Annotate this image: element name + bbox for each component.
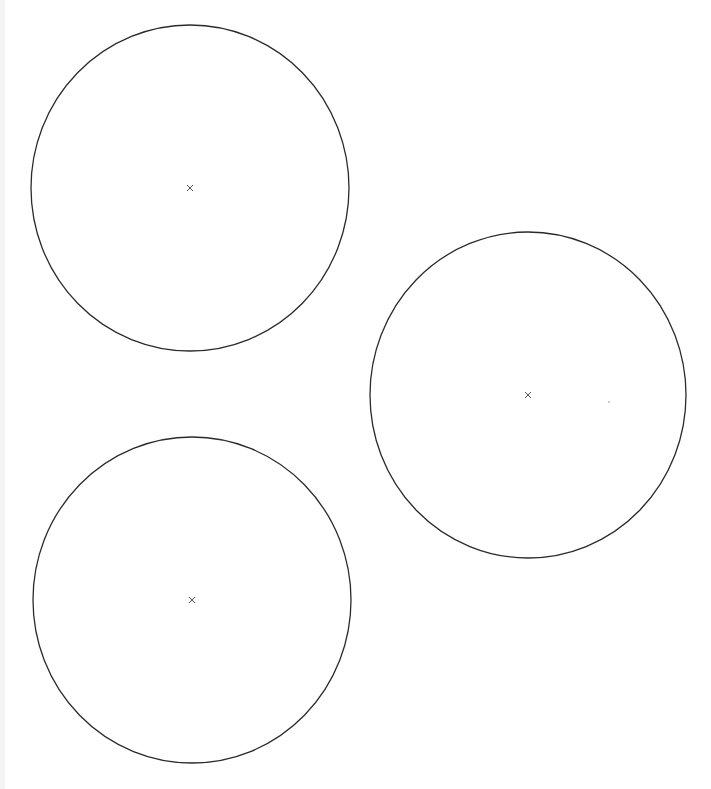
diagram-canvas xyxy=(0,0,711,789)
center-x-icon xyxy=(525,392,531,398)
circle-right xyxy=(370,232,686,558)
stray-dot xyxy=(608,402,610,403)
center-x-icon xyxy=(187,185,193,191)
center-x-icon xyxy=(189,597,195,603)
circle-top-left xyxy=(31,25,349,351)
circle-bottom-left xyxy=(33,437,351,763)
